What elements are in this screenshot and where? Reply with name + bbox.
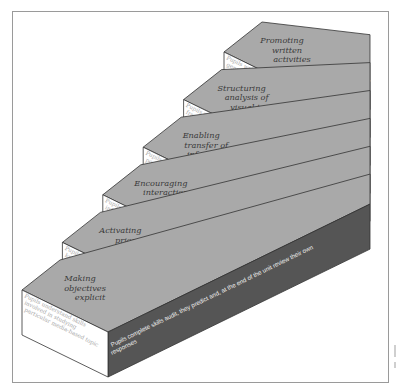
step-title: activities [273,54,311,64]
page-edge-mark [394,345,396,357]
step-title: Structuring [217,83,265,93]
step-title: analysis of [225,92,271,102]
step-title: Encouraging [133,178,187,188]
staircase-diagram: PromotingwrittenactivitiesPupils write i… [0,0,398,389]
step-title: Activating [98,225,141,235]
step-title: Promoting [259,35,303,45]
step-title: written [272,45,302,55]
step-title: explicit [75,292,106,302]
step-title: Making [63,273,95,283]
step-title: objectives [64,283,106,293]
page-edge-mark [394,362,396,368]
step-title: Enabling [182,130,220,140]
